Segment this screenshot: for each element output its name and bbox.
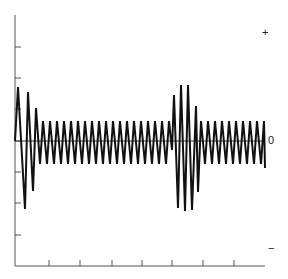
plus-label: + <box>262 27 268 38</box>
minus-label: − <box>268 243 274 254</box>
x-axis <box>15 260 265 266</box>
signal-trace <box>15 85 265 211</box>
waveform-chart <box>0 0 288 279</box>
zero-label: 0 <box>268 135 274 146</box>
